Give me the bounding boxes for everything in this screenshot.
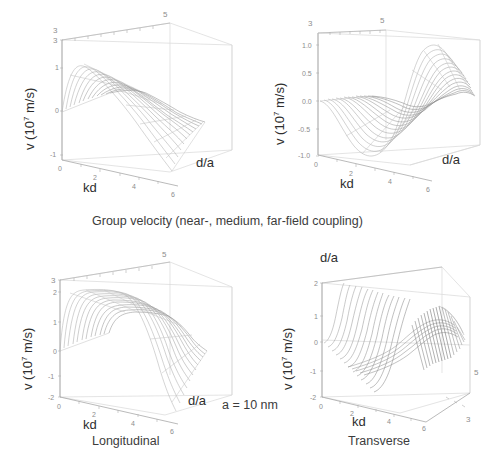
y-axis-label-bottom-right: v (107 m/s) bbox=[280, 328, 295, 390]
svg-text:1: 1 bbox=[53, 319, 57, 326]
svg-text:0: 0 bbox=[319, 403, 323, 410]
svg-text:0: 0 bbox=[53, 348, 57, 355]
z-axis-label-bottom-left: d/a bbox=[188, 393, 206, 408]
svg-text:6: 6 bbox=[422, 425, 426, 432]
svg-text:0: 0 bbox=[58, 165, 62, 172]
svg-text:6: 6 bbox=[171, 191, 175, 198]
y-axis-bottom-left: 3 2 1 0 -1 -2 bbox=[48, 276, 61, 401]
y-axis-label-bottom-left: v (107 m/s) bbox=[20, 328, 35, 390]
svg-text:6: 6 bbox=[170, 428, 174, 435]
svg-text:4: 4 bbox=[131, 420, 135, 427]
svg-text:5: 5 bbox=[474, 368, 479, 377]
svg-text:2: 2 bbox=[314, 280, 318, 287]
svg-text:1: 1 bbox=[55, 64, 59, 71]
y-axis-top-left: 3 1 0 -1 bbox=[50, 36, 63, 160]
x-axis-label-top-left: kd bbox=[83, 180, 97, 195]
y-axis-label-suffix: m/s) bbox=[20, 328, 35, 357]
svg-text:0.0: 0.0 bbox=[302, 98, 312, 105]
plot-top-right-canvas: 1.0 0.5 0.0 -0.5 -1.0 0 2 4 6 3 5 bbox=[250, 0, 499, 210]
svg-text:3: 3 bbox=[466, 415, 471, 424]
x-axis-bottom-right: 0 2 4 6 bbox=[319, 397, 426, 432]
svg-text:0: 0 bbox=[55, 107, 59, 114]
svg-text:3: 3 bbox=[308, 19, 313, 28]
plot-panel-top-left: 3 1 0 -1 0 2 4 6 3 5 bbox=[0, 0, 250, 210]
svg-text:-1: -1 bbox=[310, 368, 316, 375]
svg-text:-0.5: -0.5 bbox=[298, 126, 310, 133]
y-axis-label-prefix: v (10 bbox=[272, 116, 287, 145]
z-axis-label-bottom-right: d/a bbox=[320, 250, 338, 265]
svg-text:0: 0 bbox=[314, 161, 318, 168]
group-velocity-caption: Group velocity (near-, medium, far-field… bbox=[92, 214, 363, 228]
plot-panel-bottom-right: 2 1 0 -1 -2 0 2 4 6 5 3 bbox=[250, 245, 499, 445]
svg-text:-2: -2 bbox=[48, 394, 54, 401]
x-axis-label-bottom-left: kd bbox=[83, 417, 97, 432]
z-axis-bottom-right: 5 3 bbox=[426, 368, 479, 424]
svg-text:0: 0 bbox=[57, 403, 61, 410]
axes-frame-bottom-right bbox=[322, 267, 470, 413]
surface-mesh-top-left bbox=[62, 64, 205, 171]
svg-text:4: 4 bbox=[387, 418, 391, 425]
y-axis-label-exponent: 7 bbox=[22, 117, 31, 121]
svg-text:-1: -1 bbox=[50, 151, 56, 158]
x-axis-bottom-left: 0 2 4 6 bbox=[57, 397, 178, 435]
x-axis-label-top-right: kd bbox=[340, 176, 354, 191]
y-axis-label-suffix: m/s) bbox=[272, 83, 287, 112]
y-axis-label-top-right: v (107 m/s) bbox=[272, 83, 287, 145]
svg-text:3: 3 bbox=[51, 276, 56, 285]
plot-panel-top-right: 1.0 0.5 0.0 -0.5 -1.0 0 2 4 6 3 5 bbox=[250, 0, 499, 210]
surface-mesh-bottom-left bbox=[60, 289, 207, 411]
y-axis-label-exponent: 7 bbox=[280, 357, 289, 361]
y-axis-label-prefix: v (10 bbox=[20, 361, 35, 390]
parameter-note: a = 10 nm bbox=[222, 398, 278, 412]
surface-mesh-top-right bbox=[320, 44, 475, 156]
z-axis-label-top-right: d/a bbox=[442, 152, 460, 167]
z-axis-top-left: 3 5 bbox=[53, 10, 168, 41]
svg-text:2: 2 bbox=[53, 289, 57, 296]
svg-text:6: 6 bbox=[426, 186, 430, 193]
svg-text:1.0: 1.0 bbox=[302, 42, 312, 49]
svg-text:3: 3 bbox=[53, 36, 58, 45]
svg-text:-1: -1 bbox=[48, 373, 54, 380]
z-axis-bottom-left: 5 bbox=[74, 250, 167, 281]
svg-text:-1.0: -1.0 bbox=[298, 152, 310, 159]
svg-text:1: 1 bbox=[314, 313, 318, 320]
svg-text:4: 4 bbox=[388, 178, 392, 185]
y-axis-label-top-left: v (107 m/s) bbox=[22, 88, 37, 150]
plot-top-left-canvas: 3 1 0 -1 0 2 4 6 3 5 bbox=[0, 0, 250, 210]
z-axis-top-right: 3 5 bbox=[308, 16, 385, 35]
plot-bottom-left-canvas: 3 2 1 0 -1 -2 0 2 4 6 5 bbox=[0, 245, 250, 445]
plot-panel-bottom-left: 3 2 1 0 -1 -2 0 2 4 6 5 bbox=[0, 245, 250, 445]
svg-text:5: 5 bbox=[162, 250, 167, 259]
y-axis-bottom-right: 2 1 0 -1 -2 bbox=[310, 280, 323, 401]
svg-text:5: 5 bbox=[163, 10, 168, 19]
figure-root: 3 1 0 -1 0 2 4 6 3 5 bbox=[0, 0, 499, 473]
caption-transverse: Transverse bbox=[348, 434, 410, 448]
z-axis-label-top-left: d/a bbox=[196, 155, 214, 170]
y-axis-label-suffix: m/s) bbox=[280, 328, 295, 357]
y-axis-top-right: 1.0 0.5 0.0 -0.5 -1.0 bbox=[298, 33, 319, 159]
svg-text:3: 3 bbox=[53, 26, 58, 35]
y-axis-label-prefix: v (10 bbox=[280, 361, 295, 390]
axes-frame-bottom-left bbox=[60, 262, 232, 415]
y-axis-label-suffix: m/s) bbox=[22, 88, 37, 117]
axes-frame-top-right bbox=[318, 30, 480, 165]
y-axis-label-exponent: 7 bbox=[272, 112, 281, 116]
svg-text:0: 0 bbox=[314, 339, 318, 346]
x-axis-label-bottom-right: kd bbox=[352, 414, 366, 429]
svg-text:0.5: 0.5 bbox=[302, 70, 312, 77]
caption-longitudinal: Longitudinal bbox=[92, 434, 159, 448]
svg-text:-2: -2 bbox=[310, 394, 316, 401]
x-axis-top-left: 0 2 4 6 bbox=[58, 160, 178, 198]
svg-text:4: 4 bbox=[132, 183, 136, 190]
y-axis-label-exponent: 7 bbox=[20, 357, 29, 361]
surface-mesh-bottom-right bbox=[324, 283, 465, 392]
svg-text:5: 5 bbox=[380, 16, 385, 25]
y-axis-label-prefix: v (10 bbox=[22, 121, 37, 150]
